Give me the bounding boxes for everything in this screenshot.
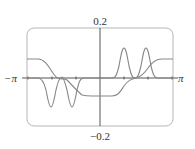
x-min-label: −π (4, 73, 17, 84)
x-max-label: π (178, 73, 184, 84)
y-min-label: −0.2 (90, 131, 110, 142)
y-max-label: 0.2 (93, 16, 107, 27)
